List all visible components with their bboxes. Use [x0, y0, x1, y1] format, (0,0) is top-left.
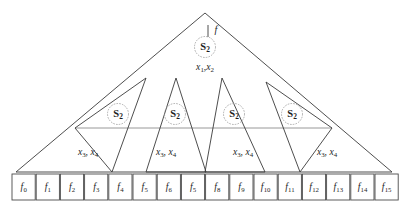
leaf-sub: 6	[169, 186, 172, 193]
root-variables-label: x1,x2	[196, 62, 214, 72]
leaf-label: f9	[238, 182, 244, 192]
branch-node-subscript: 2	[119, 112, 123, 121]
branch-node-subscript: 2	[293, 112, 297, 121]
leaf-sub: 13	[336, 186, 343, 193]
leaf-sub: 15	[385, 186, 392, 193]
leaf-sub: 0	[23, 186, 26, 193]
root-var1-sub: 1	[200, 66, 203, 73]
branch-var1-sub: 3	[321, 151, 324, 158]
leaf-label: f0	[21, 182, 27, 192]
leaf-label: f6	[166, 182, 172, 192]
leaf-sub: 3	[96, 186, 99, 193]
branch-triangle-2	[146, 78, 206, 172]
branch-var2-sub: 4	[95, 151, 98, 158]
branch-triangle-4	[266, 82, 332, 172]
leaf-label: f14	[358, 182, 367, 192]
leaf-sub: 11	[288, 186, 295, 193]
leaf-sub: 5	[144, 186, 147, 193]
figure-root: f S2 x1,x2 S2 S2 S2 S2 x3, x4 x3, x4 x3,…	[0, 0, 410, 206]
leaf-label: f3	[93, 182, 99, 192]
leaf-label: f4	[117, 182, 123, 192]
leaf-label: f11	[285, 182, 294, 192]
root-node-subscript: 2	[206, 45, 210, 54]
leaf-sub: 12	[312, 186, 319, 193]
branch-node-label-2: S2	[170, 109, 180, 120]
branch-node-subscript: 2	[176, 112, 180, 121]
leaf-label: f2	[69, 182, 75, 192]
branch-var2-sub: 4	[173, 151, 176, 158]
branch-var2-sub: 4	[334, 151, 337, 158]
branch-variables-label-3: x3, x4	[233, 147, 253, 157]
branch-var2-sub: 4	[250, 151, 253, 158]
root-input-label: f	[215, 25, 218, 35]
leaf-label: f10	[261, 182, 270, 192]
branch-var1-sub: 3	[237, 151, 240, 158]
leaf-sub: 10	[264, 186, 271, 193]
branch-node-label-4: S2	[287, 109, 297, 120]
root-node-label: S2	[200, 42, 210, 53]
leaf-sub: 1	[48, 186, 51, 193]
branch-node-label-3: S2	[229, 109, 239, 120]
branch-node-subscript: 2	[235, 112, 239, 121]
leaf-label: f13	[333, 182, 342, 192]
leaf-sub: 8	[217, 186, 220, 193]
diagram-canvas	[0, 0, 410, 206]
leaf-sub: 5	[193, 186, 196, 193]
leaf-label: f8	[214, 182, 220, 192]
leaf-label: f5	[190, 182, 196, 192]
leaf-sub: 14	[361, 186, 368, 193]
leaf-label: f15	[382, 182, 391, 192]
branch-triangle-3	[205, 78, 265, 172]
leaf-sub: 4	[120, 186, 123, 193]
branch-variables-label-1: x3, x4	[78, 147, 98, 157]
root-var2-sub: 2	[211, 66, 214, 73]
leaf-label: f1	[45, 182, 51, 192]
leaf-sub: 2	[72, 186, 75, 193]
branch-node-label-1: S2	[113, 109, 123, 120]
leaf-label: f12	[309, 182, 318, 192]
branch-variables-label-2: x3, x4	[156, 147, 176, 157]
leaf-sub: 9	[241, 186, 244, 193]
branch-var1-sub: 3	[160, 151, 163, 158]
leaf-label: f5	[142, 182, 148, 192]
branch-var1-sub: 3	[82, 151, 85, 158]
branch-variables-label-4: x3, x4	[317, 147, 337, 157]
